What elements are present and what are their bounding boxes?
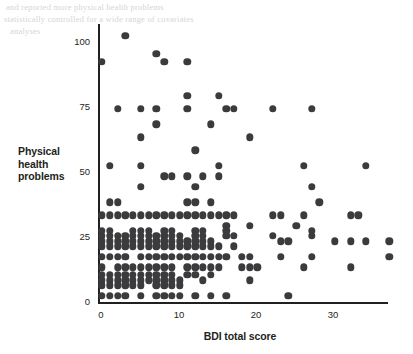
scatter-point xyxy=(184,172,191,179)
scatter-point xyxy=(153,211,160,218)
page-bleed-text: analyses xyxy=(10,26,40,36)
scatter-point xyxy=(347,211,354,218)
scatter-point xyxy=(191,243,198,250)
scatter-point xyxy=(145,237,152,244)
scatter-point xyxy=(168,263,175,270)
scatter-point xyxy=(191,232,198,239)
scatter-point xyxy=(207,198,214,205)
scatter-point xyxy=(114,253,121,260)
scatter-point xyxy=(184,253,191,260)
scatter-point xyxy=(122,32,129,39)
scatter-point xyxy=(277,237,284,244)
scatter-point xyxy=(184,263,191,270)
scatter-point xyxy=(347,263,354,270)
scatter-point xyxy=(137,232,144,239)
scatter-point xyxy=(122,253,129,260)
x-tick-label-20: 20 xyxy=(244,309,268,320)
scatter-point xyxy=(122,282,129,289)
scatter-point xyxy=(184,237,191,244)
scatter-point xyxy=(355,211,362,218)
scatter-point xyxy=(168,253,175,260)
scatter-point xyxy=(207,271,214,278)
scatter-point xyxy=(199,172,206,179)
scatter-point xyxy=(122,271,129,278)
scatter-point xyxy=(191,227,198,234)
scatter-point xyxy=(207,120,214,127)
scatter-point xyxy=(199,211,206,218)
scatter-point xyxy=(137,162,144,169)
scatter-point xyxy=(122,243,129,250)
scatter-point xyxy=(308,227,315,234)
scatter-point xyxy=(191,146,198,153)
scatter-point xyxy=(184,92,191,99)
scatter-point xyxy=(114,271,121,278)
scatter-point xyxy=(137,282,144,289)
scatter-point xyxy=(145,253,152,260)
scatter-point xyxy=(215,92,222,99)
scatter-point xyxy=(207,263,214,270)
scatter-point xyxy=(184,198,191,205)
scatter-point xyxy=(246,263,253,270)
scatter-point xyxy=(199,227,206,234)
scatter-point xyxy=(160,211,167,218)
scatter-point xyxy=(300,162,307,169)
scatter-point xyxy=(137,211,144,218)
scatter-point xyxy=(285,292,292,299)
scatter-point xyxy=(199,243,206,250)
scatter-point xyxy=(106,232,113,239)
scatter-point xyxy=(106,276,113,283)
y-tick-label-100: 100 xyxy=(64,36,90,47)
x-axis-title: BDI total score xyxy=(140,330,340,343)
scatter-point xyxy=(168,232,175,239)
scatter-point xyxy=(168,243,175,250)
scatter-point xyxy=(129,263,136,270)
scatter-point xyxy=(106,243,113,250)
scatter-point xyxy=(122,263,129,270)
y-axis-line xyxy=(98,24,100,304)
scatter-point xyxy=(129,276,136,283)
scatter-point xyxy=(191,183,198,190)
scatter-point xyxy=(277,253,284,260)
scatter-point xyxy=(191,237,198,244)
scatter-point xyxy=(160,237,167,244)
scatter-point xyxy=(160,58,167,65)
scatter-point xyxy=(114,237,121,244)
scatter-point xyxy=(137,253,144,260)
page-bleed-text: and reported more physical health proble… xyxy=(6,2,164,12)
scatter-point xyxy=(191,198,198,205)
scatter-point xyxy=(160,243,167,250)
scatter-point xyxy=(153,271,160,278)
scatter-point xyxy=(331,237,338,244)
scatter-point xyxy=(106,211,113,218)
scatter-point xyxy=(176,211,183,218)
scatter-point xyxy=(191,211,198,218)
scatter-point xyxy=(223,253,230,260)
scatter-point xyxy=(137,237,144,244)
scatter-point xyxy=(137,227,144,234)
scatter-point xyxy=(300,211,307,218)
scatter-point xyxy=(347,237,354,244)
scatter-point xyxy=(114,232,121,239)
scatter-point xyxy=(308,183,315,190)
scatter-point xyxy=(145,271,152,278)
scatter-point xyxy=(168,172,175,179)
scatter-point xyxy=(176,232,183,239)
scatter-point xyxy=(292,222,299,229)
scatter-point xyxy=(160,271,167,278)
scatter-point xyxy=(308,232,315,239)
scatter-point xyxy=(362,237,369,244)
scatter-point xyxy=(168,237,175,244)
scatter-point xyxy=(386,237,393,244)
scatter-point xyxy=(269,211,276,218)
scatter-point xyxy=(114,211,121,218)
page-bleed-text: statistically controlled for a wide rang… xyxy=(4,14,194,24)
scatter-point xyxy=(137,276,144,283)
scatter-plot-figure: and reported more physical health proble… xyxy=(0,0,413,354)
scatter-point xyxy=(168,276,175,283)
scatter-point xyxy=(246,222,253,229)
scatter-point xyxy=(168,211,175,218)
scatter-point xyxy=(122,211,129,218)
scatter-point xyxy=(137,183,144,190)
scatter-point xyxy=(153,253,160,260)
scatter-point xyxy=(238,263,245,270)
